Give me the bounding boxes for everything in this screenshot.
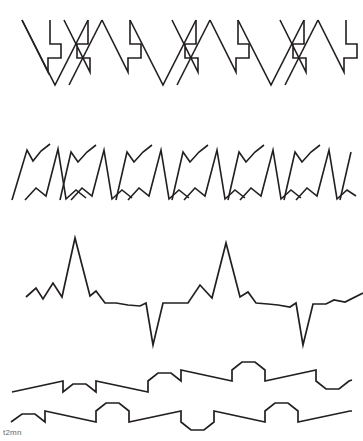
row1-notch-right-0 <box>64 20 90 72</box>
row1-diag-3 <box>285 20 318 85</box>
row1-diag-1 <box>69 20 102 85</box>
pattern-row-2-zigzag-sawtooth <box>0 120 363 225</box>
pattern-row-1-square-tooth-triangles <box>0 0 363 120</box>
row4-upper-ribbon <box>12 362 352 392</box>
row1-notch-right-2 <box>280 20 306 72</box>
row3-wave <box>26 238 363 345</box>
row1-v-0 <box>22 20 88 85</box>
row1-notch-left-2 <box>210 20 249 72</box>
row1-notch-left-3 <box>318 20 357 72</box>
row-2-strokes <box>12 144 356 200</box>
row1-notch-left-1 <box>102 20 141 72</box>
row1-diag-2 <box>177 20 210 85</box>
row-3-strokes <box>26 238 363 345</box>
row4-lower-ribbon <box>11 403 352 430</box>
figure-caption: t2mn <box>3 428 22 438</box>
pattern-row-4-interlocking-ribbon <box>0 360 363 441</box>
row-4-strokes <box>11 362 352 430</box>
row1-notch-right-1 <box>172 20 198 72</box>
row1-v-2 <box>238 20 304 85</box>
row-1-strokes <box>22 20 357 85</box>
row1-notch-left-0 <box>22 20 61 72</box>
row2-zig-0 <box>25 149 86 200</box>
figure-canvas: t2mn <box>0 0 363 441</box>
pattern-row-3-ecg-like-wave <box>0 225 363 360</box>
row2-ramp-0 <box>12 144 50 200</box>
row2-ramp-2 <box>116 145 152 200</box>
row1-v-1 <box>130 20 196 85</box>
row2-ramp-6 <box>340 152 351 200</box>
